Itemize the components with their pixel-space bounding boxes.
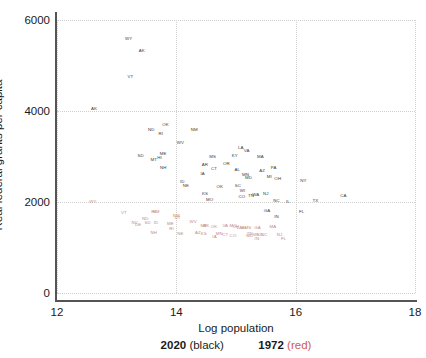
data-point-label: AK bbox=[91, 107, 97, 111]
data-point-label: WY bbox=[125, 37, 132, 41]
data-point-label: MA bbox=[270, 224, 277, 228]
x-tick-label: 12 bbox=[51, 306, 64, 318]
data-point-label: RI bbox=[169, 227, 174, 231]
chart-root: WYAKVTAKOKNDRINMWVSDMEMTHINHLAVAKYMAMSAR… bbox=[0, 0, 426, 358]
data-point-label: MI bbox=[267, 175, 272, 179]
data-point-label: VT bbox=[121, 211, 127, 215]
data-point-label: FL bbox=[281, 237, 286, 241]
gridline-horizontal bbox=[57, 202, 415, 203]
data-point-label: HI bbox=[157, 156, 162, 160]
y-axis-label: Real federal grants per capita bbox=[0, 55, 4, 255]
legend-1972-color-note: (red) bbox=[287, 339, 311, 351]
data-point-label: MS bbox=[245, 226, 252, 230]
data-point-label: WY bbox=[89, 200, 96, 204]
data-point-label: AZ bbox=[259, 168, 265, 172]
data-point-label: CT bbox=[211, 167, 217, 171]
data-point-label: CO bbox=[230, 234, 237, 238]
data-point-label: WV bbox=[189, 220, 196, 224]
chart-legend: 2020 (black) 1972 (red) bbox=[161, 339, 312, 351]
y-tick-labels: 0200040006000 bbox=[0, 0, 50, 358]
data-point-label: NY bbox=[300, 179, 306, 183]
y-tick-label: 4000 bbox=[24, 105, 50, 117]
data-point-label: WI bbox=[240, 188, 246, 192]
legend-entry-2020: 2020 (black) bbox=[161, 339, 224, 351]
data-point-label: VA bbox=[222, 223, 228, 227]
data-point-label: CT bbox=[222, 233, 228, 237]
data-point-label: RI bbox=[159, 132, 164, 136]
x-tick-label: 16 bbox=[289, 306, 302, 318]
legend-2020-year: 2020 bbox=[161, 339, 187, 351]
data-point-label: CA bbox=[340, 194, 346, 198]
gridline-vertical bbox=[296, 20, 297, 293]
y-tick-label: 6000 bbox=[24, 14, 50, 26]
data-point-label: MT bbox=[150, 157, 157, 161]
data-point-label: AL bbox=[234, 167, 240, 171]
data-point-label: IA bbox=[212, 235, 216, 239]
data-point-label: OR bbox=[223, 162, 230, 166]
gridline-vertical bbox=[176, 20, 177, 293]
data-point-label: MS bbox=[209, 155, 216, 159]
y-tick-label: 2000 bbox=[24, 196, 50, 208]
gridline-vertical bbox=[415, 20, 416, 293]
data-point-label: SD bbox=[137, 153, 143, 157]
data-point-label: VA bbox=[244, 148, 250, 152]
gridline-vertical bbox=[57, 20, 58, 293]
data-point-label: NH bbox=[160, 166, 167, 170]
data-point-label: MA bbox=[257, 155, 264, 159]
data-point-label: PA bbox=[271, 166, 277, 170]
legend-2020-color-note: (black) bbox=[189, 339, 224, 351]
data-point-label: UT bbox=[174, 216, 180, 220]
data-point-label: KY bbox=[232, 154, 238, 158]
data-point-label: CO bbox=[239, 195, 246, 199]
data-point-label: WV bbox=[177, 141, 184, 145]
data-point-label: OK bbox=[217, 184, 224, 188]
data-point-label: IA bbox=[200, 172, 204, 176]
data-point-label: NM bbox=[191, 127, 198, 131]
data-point-label: NJ bbox=[263, 192, 269, 196]
data-point-label: NE bbox=[177, 232, 183, 236]
data-point-label: GA bbox=[254, 226, 261, 230]
gridline-horizontal bbox=[57, 111, 415, 112]
gridline-horizontal bbox=[57, 293, 415, 294]
data-point-label: GA bbox=[264, 208, 271, 212]
gridline-horizontal bbox=[57, 20, 415, 21]
data-point-label: AK bbox=[203, 224, 209, 228]
data-point-label: NH bbox=[150, 231, 157, 235]
data-point-label: OK bbox=[162, 122, 169, 126]
data-point-label: AR bbox=[202, 162, 208, 166]
data-point-label: IL bbox=[286, 199, 290, 203]
plot-area: WYAKVTAKOKNDRINMWVSDMEMTHINHLAVAKYMAMSAR… bbox=[57, 20, 415, 293]
data-point-label: AK bbox=[139, 49, 145, 53]
data-point-label: KS bbox=[201, 232, 207, 236]
x-tick-label: 18 bbox=[409, 306, 422, 318]
data-point-label: OH bbox=[233, 225, 240, 229]
data-point-label: FL bbox=[299, 210, 304, 214]
data-point-label: VT bbox=[127, 75, 133, 79]
y-tick-label: 0 bbox=[44, 287, 50, 299]
data-point-label: NC bbox=[273, 198, 280, 202]
data-point-label: ND bbox=[148, 127, 155, 131]
data-point-label: LA bbox=[238, 146, 244, 150]
data-point-label: IN bbox=[255, 237, 260, 241]
data-point-label: IN bbox=[274, 215, 279, 219]
data-point-label: TX bbox=[312, 199, 318, 203]
x-axis-line bbox=[55, 300, 417, 302]
legend-entry-1972: 1972 (red) bbox=[258, 339, 311, 351]
legend-1972-year: 1972 bbox=[258, 339, 284, 351]
data-point-label: DE bbox=[135, 223, 141, 227]
data-point-label: OH bbox=[274, 177, 281, 181]
x-tick-label: 14 bbox=[170, 306, 183, 318]
data-point-label: SD bbox=[145, 221, 151, 225]
data-point-label: WA bbox=[252, 193, 259, 197]
x-axis-label: Log population bbox=[198, 322, 273, 334]
data-point-label: MD bbox=[245, 176, 252, 180]
data-point-label: MO bbox=[206, 198, 213, 202]
data-point-label: NE bbox=[183, 184, 189, 188]
data-point-label: ID bbox=[154, 221, 159, 225]
data-point-label: NM bbox=[153, 209, 160, 213]
data-point-label: NC bbox=[261, 233, 268, 237]
data-point-label: OK bbox=[211, 225, 218, 229]
